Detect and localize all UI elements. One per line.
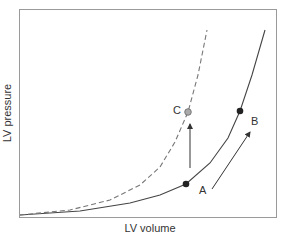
arrow-a-to-b (212, 132, 250, 189)
y-axis-label: LV pressure (1, 73, 13, 153)
point-b-label: B (251, 115, 258, 127)
point-a-dot (183, 181, 190, 188)
pressure-volume-chart (0, 0, 283, 238)
point-b-dot (237, 108, 244, 115)
point-c-dot (185, 109, 192, 116)
x-axis-label: LV volume (110, 222, 190, 234)
solid-compliance-curve (20, 30, 265, 215)
point-a-label: A (199, 184, 206, 196)
point-c-label: C (173, 104, 181, 116)
